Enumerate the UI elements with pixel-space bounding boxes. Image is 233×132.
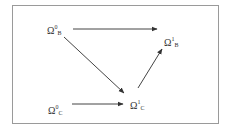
arrows-layer <box>0 0 233 132</box>
node-sub: B <box>57 30 61 36</box>
node-omega1-C: Ω1C <box>130 99 144 111</box>
node-sub: B <box>174 42 178 48</box>
arrow-1C-to-1B <box>138 49 162 88</box>
node-omega0-B: Ω0B <box>47 24 61 36</box>
node-sub: C <box>58 110 62 116</box>
arrow-0B-to-1C <box>64 37 124 93</box>
node-omega0-C: Ω0C <box>48 104 62 116</box>
node-omega1-B: Ω1B <box>164 36 178 48</box>
node-sub: C <box>140 105 144 111</box>
